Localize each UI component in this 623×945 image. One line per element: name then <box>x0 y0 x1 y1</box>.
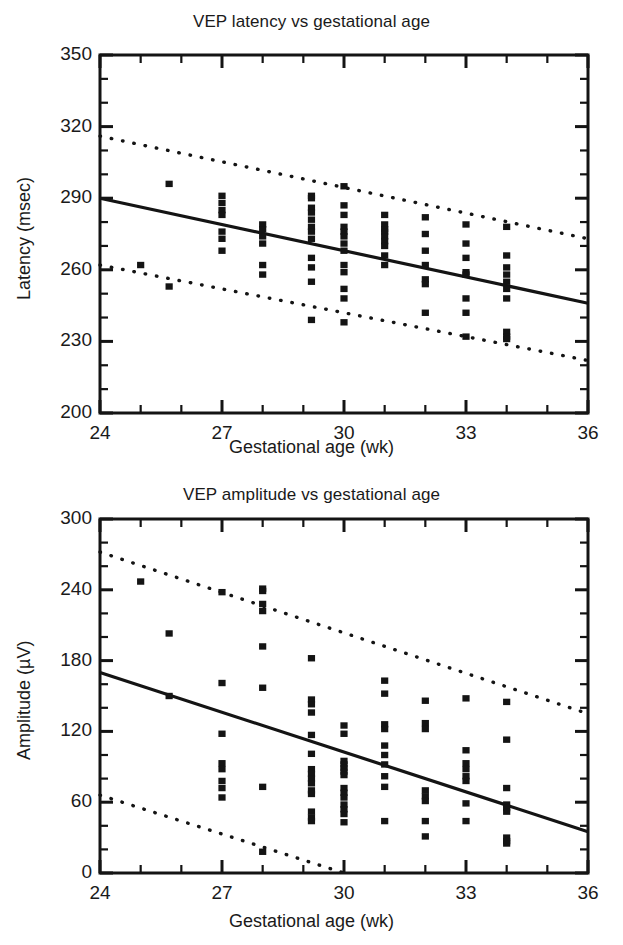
data-point <box>308 655 315 661</box>
data-point <box>166 283 173 289</box>
data-point <box>308 317 315 323</box>
data-point <box>259 262 266 268</box>
data-point <box>503 840 510 846</box>
data-point <box>308 818 315 824</box>
x-tick-label: 36 <box>566 882 610 904</box>
data-point <box>308 195 315 201</box>
data-point <box>218 228 225 234</box>
data-point <box>340 269 347 275</box>
data-point <box>308 255 315 261</box>
chart-amplitude: VEP amplitude vs gestational age Gestati… <box>0 470 623 945</box>
data-point <box>340 731 347 737</box>
data-point <box>462 221 469 227</box>
data-point <box>218 785 225 791</box>
data-point <box>503 252 510 258</box>
data-point <box>381 726 388 732</box>
data-point <box>381 690 388 696</box>
data-point <box>503 286 510 292</box>
data-point <box>381 243 388 249</box>
data-point <box>462 778 469 784</box>
data-point <box>462 766 469 772</box>
data-point <box>218 236 225 242</box>
data-point <box>340 248 347 254</box>
data-point <box>308 209 315 215</box>
data-point <box>218 248 225 254</box>
y-tick-label: 320 <box>34 115 92 137</box>
data-point <box>218 760 225 766</box>
x-tick-label: 27 <box>200 882 244 904</box>
data-point <box>422 798 429 804</box>
data-point <box>308 791 315 797</box>
data-point <box>340 319 347 325</box>
data-point <box>259 608 266 614</box>
data-point <box>308 780 315 786</box>
data-point <box>340 212 347 218</box>
data-point <box>259 233 266 239</box>
data-point <box>218 193 225 199</box>
data-point <box>340 233 347 239</box>
data-point <box>462 310 469 316</box>
data-point <box>422 698 429 704</box>
data-point <box>166 630 173 636</box>
figure-page: VEP latency vs gestational age Gestation… <box>0 0 623 945</box>
data-point <box>308 732 315 738</box>
data-point <box>381 784 388 790</box>
data-point <box>340 262 347 268</box>
data-point <box>137 262 144 268</box>
data-point <box>462 695 469 701</box>
data-point <box>259 849 266 855</box>
data-point <box>340 811 347 817</box>
data-point <box>462 818 469 824</box>
data-point <box>422 818 429 824</box>
data-point <box>422 720 429 726</box>
data-point <box>462 255 469 261</box>
data-point <box>422 726 429 732</box>
data-point <box>422 833 429 839</box>
data-point <box>340 819 347 825</box>
data-point <box>166 693 173 699</box>
data-point <box>218 731 225 737</box>
data-point <box>340 772 347 778</box>
data-point <box>259 601 266 607</box>
x-tick-label: 24 <box>78 882 122 904</box>
data-point <box>503 336 510 342</box>
data-point <box>503 271 510 277</box>
data-point <box>381 252 388 258</box>
data-point <box>218 778 225 784</box>
data-point <box>259 240 266 246</box>
x-tick-label: 33 <box>444 422 488 444</box>
data-point <box>259 643 266 649</box>
y-tick-label: 230 <box>34 329 92 351</box>
data-point <box>340 183 347 189</box>
data-point <box>340 722 347 728</box>
data-point <box>381 262 388 268</box>
data-point <box>462 747 469 753</box>
data-point <box>381 761 388 767</box>
data-point <box>462 800 469 806</box>
data-point <box>503 736 510 742</box>
data-point <box>462 760 469 766</box>
y-tick-label: 300 <box>34 507 92 529</box>
data-point <box>308 228 315 234</box>
x-tick-label: 30 <box>322 422 366 444</box>
data-point <box>381 752 388 758</box>
data-point <box>381 212 388 218</box>
data-point <box>503 279 510 285</box>
data-point <box>340 295 347 301</box>
data-point <box>503 785 510 791</box>
data-point <box>340 286 347 292</box>
data-point <box>422 231 429 237</box>
confidence-band-upper <box>100 552 588 714</box>
data-point <box>340 794 347 800</box>
confidence-band-lower <box>100 265 588 360</box>
data-point <box>259 588 266 594</box>
data-point <box>340 240 347 246</box>
y-tick-label: 290 <box>34 186 92 208</box>
data-point <box>422 281 429 287</box>
x-tick-label: 36 <box>566 422 610 444</box>
data-point <box>218 200 225 206</box>
data-point <box>218 794 225 800</box>
plot-area-amplitude <box>0 470 623 945</box>
data-point <box>422 248 429 254</box>
data-point <box>259 271 266 277</box>
